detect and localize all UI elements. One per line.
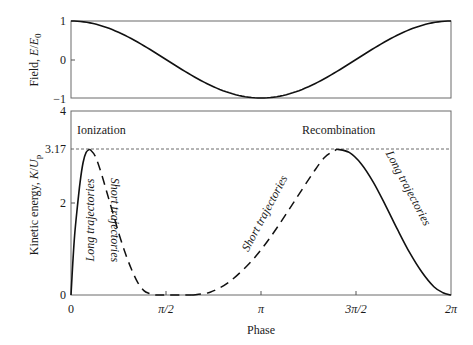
field-axis-label: Field, E/E0 xyxy=(27,33,43,87)
long-trajectories-left-label: Long trajectories xyxy=(83,178,97,262)
energy-axis-label: Kinetic energy, K/Up xyxy=(27,154,43,255)
energy-tick-label-2: 2 xyxy=(60,196,66,210)
short-trajectories-right-label: Short trajectories xyxy=(238,172,290,253)
energy-panel: 4 3.17 2 0 Kinetic energy, K/Up 0 π/2 π … xyxy=(27,104,458,337)
x-tick-label-pi: π xyxy=(258,302,265,316)
x-tick-label-3pi-half: 3π/2 xyxy=(344,302,366,316)
recombination-label: Recombination xyxy=(302,123,375,137)
ionization-label: Ionization xyxy=(77,123,126,137)
field-tick-label-1: 1 xyxy=(60,14,66,28)
field-panel: 1 0 −1 Field, E/E0 xyxy=(27,14,451,106)
x-tick-label-2pi: 2π xyxy=(445,302,458,316)
x-tick-label-pi-half: π/2 xyxy=(158,302,173,316)
x-tick-label-0: 0 xyxy=(68,302,74,316)
field-tick-label-0: 0 xyxy=(60,53,66,67)
x-axis-label: Phase xyxy=(247,323,275,337)
field-curve xyxy=(71,21,451,98)
energy-tick-label-4: 4 xyxy=(60,104,66,118)
short-trajectory-ionization-curve xyxy=(90,149,192,295)
figure: 1 0 −1 Field, E/E0 4 3.17 2 0 Kinetic en… xyxy=(0,0,473,345)
energy-tick-label-0: 0 xyxy=(60,288,66,302)
field-plot-frame xyxy=(71,21,451,98)
energy-tick-label-317: 3.17 xyxy=(45,142,66,156)
short-trajectories-left-label: Short trajectories xyxy=(108,178,122,263)
